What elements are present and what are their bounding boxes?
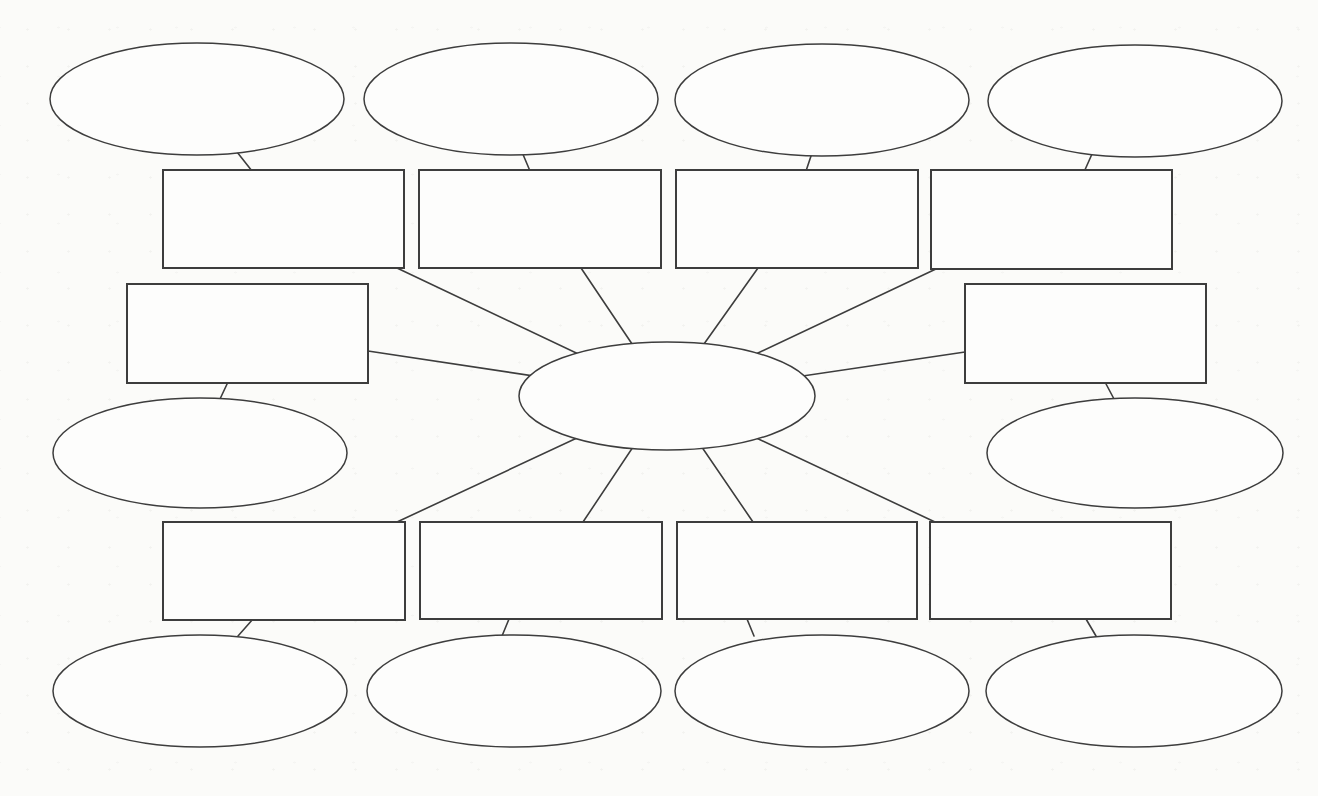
top-detail-oval-3 xyxy=(675,44,969,156)
link-right-oval-connector-line xyxy=(1105,382,1114,399)
left-detail-oval xyxy=(53,398,347,508)
top-branch-box-2 xyxy=(419,170,661,268)
bottom-branch-box-2 xyxy=(420,522,662,619)
graphic-organizer-page xyxy=(0,0,1318,796)
top-detail-oval-4 xyxy=(988,45,1282,157)
bottom-branch-box-4 xyxy=(930,522,1171,619)
bottom-detail-oval-1 xyxy=(53,635,347,747)
top-detail-oval-1 xyxy=(50,43,344,155)
bottom-detail-oval-4 xyxy=(986,635,1282,747)
spider-map-diagram xyxy=(0,0,1318,796)
diagram-nodes-layer xyxy=(50,43,1283,747)
left-branch-box xyxy=(127,284,368,383)
link-bottom-oval-3-connector-line xyxy=(747,619,754,636)
link-bottom-oval-1-connector-line xyxy=(238,619,253,636)
link-bottom-oval-2-connector-line xyxy=(502,619,509,636)
main-topic-oval xyxy=(519,342,815,450)
link-left-oval-connector-line xyxy=(220,382,228,399)
bottom-detail-oval-3 xyxy=(675,635,969,747)
bottom-branch-box-1 xyxy=(163,522,405,620)
right-detail-oval xyxy=(987,398,1283,508)
bottom-detail-oval-2 xyxy=(367,635,661,747)
top-branch-box-1 xyxy=(163,170,404,268)
link-top-oval-1-connector-line xyxy=(237,152,252,171)
top-branch-box-3 xyxy=(676,170,918,268)
link-bottom-oval-4-connector-line xyxy=(1086,619,1096,636)
top-detail-oval-2 xyxy=(364,43,658,155)
right-branch-box xyxy=(965,284,1206,383)
bottom-branch-box-3 xyxy=(677,522,917,619)
top-branch-box-4 xyxy=(931,170,1172,269)
